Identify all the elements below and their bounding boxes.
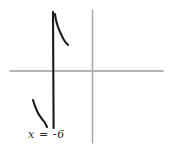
upper-branch-curve [55, 14, 68, 45]
vertical-asymptote-line [53, 12, 54, 128]
graph-canvas [0, 0, 169, 149]
asymptote-equation-label: x = -6 [28, 128, 65, 141]
asymptote-group [53, 12, 54, 128]
graph-figure: x = -6 [0, 0, 169, 149]
lower-branch-curve [33, 100, 47, 127]
axes-group [10, 10, 163, 143]
